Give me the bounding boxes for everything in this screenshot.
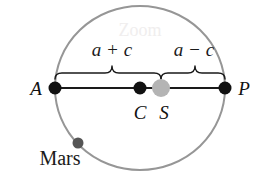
point-apoapsis-a xyxy=(49,82,62,95)
background-watermark: Zoom xyxy=(119,20,162,40)
brace-label-a-plus-c: a + c xyxy=(92,39,133,60)
label-point-c: C xyxy=(134,102,147,123)
point-center-c xyxy=(134,82,147,95)
label-point-a: A xyxy=(28,78,42,99)
point-periapsis-p xyxy=(219,82,232,95)
brace-label-a-minus-c: a − c xyxy=(174,39,215,60)
brace-a-plus-c xyxy=(55,66,161,79)
figure-canvas: Zoom a + c a − c A C S P Mars xyxy=(0,0,273,176)
orbit-diagram: Zoom a + c a − c A C S P Mars xyxy=(0,0,273,176)
point-sun-s xyxy=(152,79,170,97)
mars-label: Mars xyxy=(39,147,80,169)
brace-a-minus-c xyxy=(161,66,225,79)
label-point-p: P xyxy=(237,78,250,99)
label-point-s: S xyxy=(159,102,169,123)
